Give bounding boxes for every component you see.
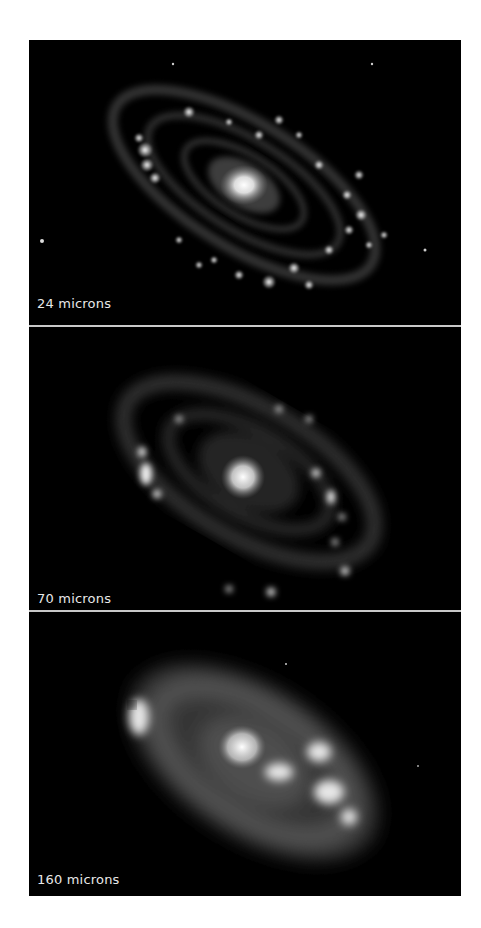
panel-160-microns: 160 microns — [29, 612, 461, 896]
wavelength-label: 24 microns — [37, 296, 111, 311]
wavelength-label: 160 microns — [37, 872, 120, 887]
panel-24-microns: 24 microns — [29, 40, 461, 325]
galaxy-image-160-microns — [29, 612, 461, 896]
galaxy-wavelength-figure: 24 microns — [29, 40, 461, 896]
wavelength-label: 70 microns — [37, 591, 111, 606]
galaxy-image-24-microns — [29, 40, 461, 325]
galaxy-image-70-microns — [29, 327, 461, 610]
panel-70-microns: 70 microns — [29, 327, 461, 610]
